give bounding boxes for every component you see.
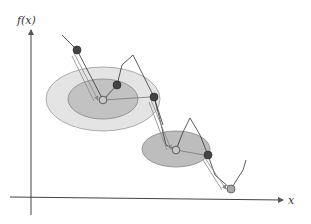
node-light-2 [172, 146, 180, 154]
node-dark-3 [150, 93, 158, 101]
node-dark-4 [204, 151, 212, 159]
x-axis-label: x [288, 194, 295, 207]
node-dark-1 [73, 46, 81, 54]
node-dark-2 [113, 81, 121, 89]
node-light-3 [227, 185, 235, 193]
node-light-1 [99, 96, 107, 104]
y-axis-label: f(x) [16, 14, 36, 27]
x-axis [10, 197, 283, 200]
optimization-diagram: f(x) x [0, 0, 311, 224]
